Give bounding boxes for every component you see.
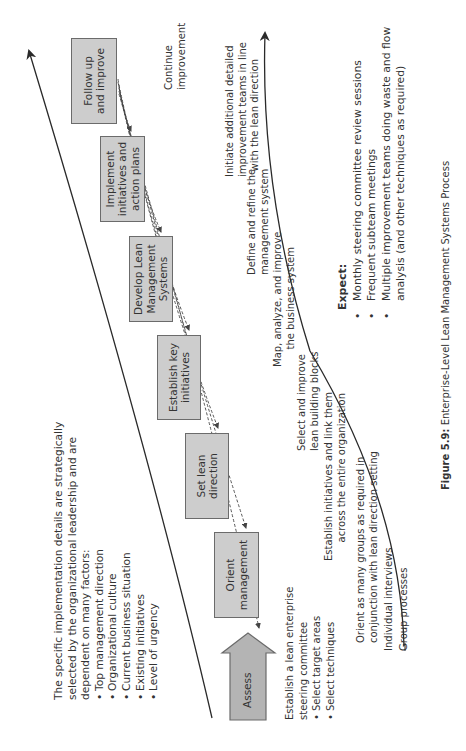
activity-line: management system — [259, 175, 272, 275]
activity-define-refine: Define and refine the management system — [246, 175, 271, 275]
expect-block: Expect: Monthly steering committee revie… — [336, 27, 409, 310]
expect-item-text: Multiple improvement teams doing waste a… — [380, 27, 393, 301]
expect-item-text: Monthly steering committee review sessio… — [351, 60, 364, 301]
step-label-line: Implement — [104, 142, 117, 216]
activity-line: Map, analyze, and improve — [272, 247, 285, 367]
activity-select-improve: Select and improve lean building blocks — [296, 359, 321, 451]
activity-line: improvement — [176, 23, 189, 90]
activity-establish-initiatives: Establish initiatives and link them acro… — [322, 393, 348, 561]
activity-line: lean building blocks — [309, 359, 322, 451]
assess-notes: Establish a lean enterprise steering com… — [283, 587, 337, 720]
expect-title: Expect: — [336, 27, 351, 310]
assess-note-line: Establish a lean enterprise — [283, 587, 297, 720]
activity-line: Define and refine the — [246, 175, 259, 275]
step-label-line: Establish key — [167, 343, 180, 412]
step-label-line: initiatives and — [116, 142, 129, 216]
factors-block: The specific implementation details are … — [52, 422, 161, 700]
expect-item: Monthly steering committee review sessio… — [351, 27, 366, 310]
factor-item: Level of urgency — [147, 422, 161, 700]
step-label-line: Set lean — [195, 453, 208, 499]
activity-line: conjunction with lean direction setting — [367, 451, 380, 643]
step-label-line: Management — [145, 243, 158, 315]
activity-line: improvement teams in line — [237, 59, 250, 177]
figure-caption: Figure 5.9: Enterprise-Level Lean Manage… — [440, 161, 451, 490]
expect-item: Multiple improvement teams doing waste a… — [380, 27, 395, 310]
step-label-line: initiatives — [179, 343, 192, 412]
step-label-line: Follow up — [82, 48, 95, 114]
activity-initiate-teams: Initiate additional detailed improvement… — [224, 59, 262, 177]
factor-item: Current business situation — [120, 422, 134, 700]
activity-line: Continue — [163, 23, 176, 90]
factor-item: Existing initiatives — [134, 422, 148, 700]
step-follow-up-and-improve: Follow up and improve — [71, 38, 117, 124]
figure-label: Figure 5.9: — [440, 429, 451, 490]
factors-intro-line: The specific implementation details are … — [52, 422, 66, 700]
step-set-lean-direction: Set lean direction — [185, 433, 229, 519]
factors-intro-line: dependent on many factors: — [79, 422, 93, 700]
assess-note-bullet: Select target areas — [310, 587, 324, 720]
step-assess-label: Assess — [241, 672, 253, 708]
expect-item-text: Frequent subteam meetings — [365, 149, 378, 301]
activity-group-processes: Group processes — [398, 568, 411, 651]
expect-item: Frequent subteam meetings — [365, 27, 380, 310]
activity-line: across the entire organization — [335, 393, 348, 561]
loop-to-implement — [118, 79, 131, 131]
step-label-line: Develop Lean — [132, 243, 145, 315]
step-label-line: Systems — [157, 243, 170, 315]
activity-individual-interviews: Individual interviews — [383, 548, 396, 651]
activity-line: with the lean direction — [249, 59, 262, 177]
factor-item: Top management direction — [93, 422, 107, 700]
activity-line: Initiate additional detailed — [224, 59, 237, 177]
activity-line: Select and improve — [296, 359, 309, 451]
assess-note-line: steering committee — [297, 587, 311, 720]
step-label-line: and improve — [94, 48, 107, 114]
assess-note-bullet: Select techniques — [324, 587, 338, 720]
activity-map-analyze: Map, analyze, and improve the business s… — [272, 247, 297, 367]
activity-line: Orient as many groups as required in — [354, 451, 367, 643]
step-establish-key-initiatives: Establish key initiatives — [157, 335, 201, 420]
step-assess: Assess — [241, 672, 253, 708]
figure-title: Enterprise-Level Lean Management Systems… — [440, 161, 451, 425]
step-develop-lean-management-systems: Develop Lean Management Systems — [129, 236, 173, 322]
step-label-line: direction — [207, 453, 220, 499]
step-implement-initiatives: Implement initiatives and action plans — [100, 136, 145, 222]
step-label-line: action plans — [129, 142, 142, 216]
diagram-canvas: Assess Orient management Set lean direct… — [0, 0, 466, 751]
factor-item: Organizational culture — [106, 422, 120, 700]
activity-line: Establish initiatives and link them — [322, 393, 335, 561]
activity-line: the business system — [285, 247, 298, 367]
step-label-line: Orient — [224, 540, 237, 610]
expect-item-continuation: analysis (and other techniques as requir… — [394, 27, 409, 310]
factors-intro-line: selected by the organizational leadershi… — [66, 422, 80, 700]
step-orient-management: Orient management — [214, 532, 259, 618]
activity-continue-improvement: Continue improvement — [163, 23, 188, 90]
step-label-line: management — [237, 540, 250, 610]
activity-orient-groups: Orient as many groups as required in con… — [354, 451, 380, 643]
